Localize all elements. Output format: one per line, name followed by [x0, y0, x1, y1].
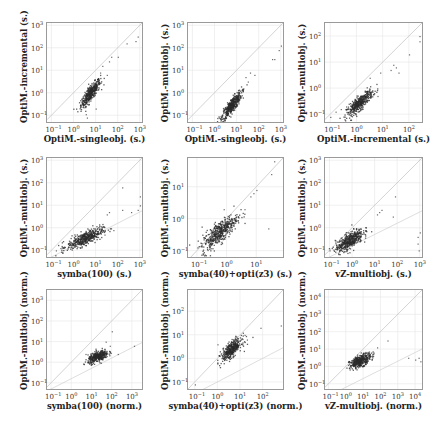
y-axis-label: OptiM.-multiobj. (s.) [160, 23, 170, 123]
y-tick-label: 101 [309, 58, 321, 67]
y-tick-label: 103 [172, 21, 184, 30]
x-axis-label: symba(100) (s.) [26, 269, 163, 279]
x-tick-label: 100 [346, 260, 358, 269]
x-axis-label: symba(40)+opti(z3) (norm.) [167, 401, 304, 411]
y-axis-label: OptiM.-multiobj. (norm.) [19, 290, 29, 390]
x-axis-label: symba(40)+opti(z3) (s.) [167, 269, 304, 279]
y-tick-label: 102 [31, 44, 43, 53]
diagonal-reference-line [47, 158, 142, 255]
ratio-reference-line [188, 348, 283, 389]
y-tick-label: 10−1 [309, 246, 325, 255]
ratio-reference-line [47, 343, 142, 389]
x-tick-label: 10−1 [324, 260, 340, 269]
x-axis-label: OptiM.-singleobj. (s.) [167, 134, 304, 144]
y-tick-label: 100 [172, 215, 184, 224]
x-tick-label: 10−1 [186, 125, 202, 134]
plot-area [46, 157, 143, 258]
x-tick-label: 103 [275, 125, 287, 134]
x-tick-label: 103 [414, 260, 426, 269]
y-tick-label: 10−1 [31, 111, 47, 120]
x-tick-label: 103 [126, 392, 138, 401]
x-tick-label: 101 [231, 125, 243, 134]
y-tick-label: 10−1 [31, 379, 47, 388]
y-tick-label: 10−1 [172, 111, 188, 120]
x-tick-label: 100 [68, 260, 80, 269]
x-tick-label: 100 [209, 125, 221, 134]
y-tick-label: 10−1 [309, 380, 325, 389]
y-tick-label: 102 [31, 179, 43, 188]
x-tick-label: 103 [392, 392, 404, 401]
y-tick-label: 100 [172, 354, 184, 363]
y-tick-label: 102 [309, 32, 321, 41]
x-tick-label: 102 [391, 260, 403, 269]
diagonal-reference-line [325, 290, 422, 387]
y-tick-label: 101 [172, 331, 184, 340]
y-tick-label: 100 [309, 224, 321, 233]
y-tick-label: 101 [309, 201, 321, 210]
y-tick-label: 101 [172, 183, 184, 192]
x-tick-label: 10−1 [322, 392, 338, 401]
x-tick-label: 102 [112, 260, 124, 269]
y-tick-label: 102 [309, 328, 321, 337]
y-tick-label: 101 [31, 201, 43, 210]
x-tick-label: 101 [90, 125, 102, 134]
x-tick-label: 100 [65, 392, 77, 401]
y-axis-label: OptiM.-multiobj. (norm.) [160, 290, 170, 390]
x-tick-label: 102 [253, 125, 265, 134]
y-tick-label: 100 [31, 224, 43, 233]
x-tick-label: 10−1 [189, 392, 205, 401]
y-tick-label: 102 [172, 44, 184, 53]
y-tick-label: 103 [309, 156, 321, 165]
ratio-reference-line [325, 349, 422, 389]
x-axis-label: vZ-multiobj. (norm.) [304, 401, 443, 411]
x-tick-label: 102 [257, 392, 269, 401]
x-tick-label: 10−1 [191, 260, 207, 269]
scatter-plot-svg [47, 158, 142, 257]
plot-area [324, 22, 423, 123]
y-tick-label: 102 [172, 307, 184, 316]
x-axis-label: OptiM.-incremental (s.) [304, 134, 443, 144]
y-tick-label: 103 [31, 21, 43, 30]
x-tick-label: 103 [134, 125, 146, 134]
y-tick-label: 10−1 [172, 378, 188, 387]
scatter-plot-grid: OptiM.-singleobj. (s.) OptiM.-incrementa… [0, 0, 444, 429]
y-tick-label: 10−1 [309, 110, 325, 119]
scatter-plot-svg [47, 290, 142, 389]
x-tick-label: 101 [357, 392, 369, 401]
x-tick-label: 100 [221, 260, 233, 269]
x-tick-label: 101 [369, 260, 381, 269]
x-tick-label: 101 [90, 260, 102, 269]
x-tick-label: 104 [409, 392, 421, 401]
scatter-plot-svg [47, 23, 142, 122]
y-axis-label: OptiM.-multiobj. (s.) [160, 158, 170, 258]
scatter-plot-svg [188, 23, 283, 122]
y-tick-label: 100 [172, 89, 184, 98]
y-axis-label: OptiM.-multiobj. (s.) [297, 158, 307, 258]
x-tick-label: 101 [377, 125, 389, 134]
x-axis-label: vZ-multiobj. (s.) [304, 269, 443, 279]
y-axis-label: OptiM.-multiobj. (s.) [297, 23, 307, 123]
y-tick-label: 103 [309, 310, 321, 319]
x-tick-label: 100 [350, 125, 362, 134]
y-tick-label: 103 [31, 296, 43, 305]
x-axis-label: OptiM.-singleobj. (s.) [26, 134, 163, 144]
y-tick-label: 100 [309, 362, 321, 371]
plot-area [187, 289, 284, 390]
diagonal-reference-line [188, 23, 283, 120]
plot-area [187, 157, 284, 258]
x-tick-label: 102 [403, 125, 415, 134]
plot-area [46, 289, 143, 390]
y-axis-label: OptiM.-multiobj. (norm.) [297, 290, 307, 390]
scatter-plot-svg [188, 290, 283, 389]
diagonal-reference-line [47, 23, 142, 120]
x-tick-label: 101 [234, 392, 246, 401]
x-tick-label: 100 [340, 392, 352, 401]
y-tick-label: 103 [31, 156, 43, 165]
x-tick-label: 10−1 [45, 260, 61, 269]
y-tick-label: 10−1 [31, 246, 47, 255]
y-tick-label: 10−1 [172, 247, 188, 256]
x-tick-label: 102 [374, 392, 386, 401]
y-tick-label: 101 [31, 66, 43, 75]
x-tick-label: 10−1 [324, 125, 340, 134]
y-tick-label: 100 [31, 358, 43, 367]
